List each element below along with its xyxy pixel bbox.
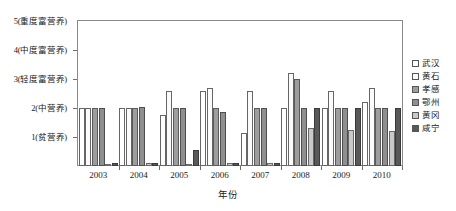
bar-group-2003 bbox=[78, 21, 119, 166]
bar-咸宁-2008 bbox=[314, 108, 320, 166]
x-tick-mark bbox=[240, 166, 241, 170]
bar-武汉-2010 bbox=[362, 102, 368, 166]
legend-label: 武汉 bbox=[422, 59, 440, 68]
bar-group-2009 bbox=[321, 21, 362, 166]
legend-label: 鄂州 bbox=[422, 98, 440, 107]
legend-item-武汉[interactable]: 武汉 bbox=[412, 57, 456, 70]
bar-咸宁-2009 bbox=[355, 108, 361, 166]
bar-黄冈-2006 bbox=[227, 163, 233, 166]
legend-swatch-icon bbox=[412, 73, 419, 80]
bar-group-2010 bbox=[362, 21, 403, 166]
legend-swatch-icon bbox=[412, 99, 419, 106]
bar-黄冈-2010 bbox=[389, 131, 395, 166]
bar-group-2008 bbox=[281, 21, 322, 166]
x-tick-mark bbox=[119, 166, 120, 170]
y-tick-label: 4(中度富营养) bbox=[14, 46, 67, 55]
bar-武汉-2007 bbox=[241, 133, 247, 166]
bar-黄石-2006 bbox=[207, 88, 213, 166]
bar-鄂州-2009 bbox=[342, 108, 348, 166]
x-axis-title: 年份 bbox=[0, 187, 456, 201]
bar-黄石-2010 bbox=[369, 88, 375, 166]
bar-黄冈-2008 bbox=[308, 128, 314, 166]
legend-swatch-icon bbox=[412, 112, 419, 119]
legend: 武汉黄石孝感鄂州黄冈咸宁 bbox=[412, 57, 456, 135]
bar-鄂州-2008 bbox=[301, 108, 307, 166]
bar-黄冈-2004 bbox=[146, 163, 152, 166]
x-tick-mark bbox=[321, 166, 322, 170]
bar-孝感-2007 bbox=[254, 108, 260, 166]
bar-鄂州-2004 bbox=[139, 107, 145, 166]
x-tick-label-2004: 2004 bbox=[130, 170, 148, 181]
bar-鄂州-2003 bbox=[99, 108, 105, 166]
bar-黄石-2008 bbox=[288, 73, 294, 166]
bar-武汉-2009 bbox=[322, 108, 328, 166]
bar-鄂州-2005 bbox=[180, 108, 186, 166]
legend-label: 咸宁 bbox=[422, 124, 440, 133]
bar-黄石-2005 bbox=[166, 91, 172, 166]
bar-鄂州-2010 bbox=[382, 108, 388, 166]
bars-container bbox=[78, 21, 402, 166]
bar-鄂州-2007 bbox=[261, 108, 267, 166]
bar-孝感-2008 bbox=[294, 79, 300, 166]
y-tick-label: 1(贫营养) bbox=[31, 133, 67, 142]
bar-黄冈-2003 bbox=[105, 164, 111, 166]
bar-黄石-2009 bbox=[328, 91, 334, 166]
x-tick-mark bbox=[159, 166, 160, 170]
bar-咸宁-2005 bbox=[193, 150, 199, 166]
legend-item-鄂州[interactable]: 鄂州 bbox=[412, 96, 456, 109]
y-tick-label: 2(中营养) bbox=[31, 104, 67, 113]
y-tick-label: 5(重度富营养) bbox=[14, 17, 67, 26]
bar-咸宁-2004 bbox=[152, 163, 158, 166]
bar-武汉-2005 bbox=[160, 115, 166, 166]
x-tick-mark bbox=[402, 166, 403, 170]
bar-孝感-2005 bbox=[173, 108, 179, 166]
bar-武汉-2006 bbox=[200, 91, 206, 166]
bar-孝感-2006 bbox=[213, 108, 219, 166]
x-tick-label-2006: 2006 bbox=[211, 170, 229, 181]
y-axis: 5(重度富营养)4(中度富营养)3(轻度富营养)2(中营养)1(贫营养) bbox=[0, 0, 77, 211]
legend-label: 黄石 bbox=[422, 72, 440, 81]
legend-swatch-icon bbox=[412, 125, 419, 132]
bar-黄冈-2005 bbox=[186, 164, 192, 166]
x-tick-mark bbox=[362, 166, 363, 170]
bar-group-2004 bbox=[119, 21, 160, 166]
x-tick-label-2008: 2008 bbox=[292, 170, 310, 181]
x-tick-label-2003: 2003 bbox=[89, 170, 107, 181]
bar-孝感-2004 bbox=[132, 108, 138, 166]
eutrophication-bar-chart: 5(重度富营养)4(中度富营养)3(轻度富营养)2(中营养)1(贫营养) 年份 … bbox=[0, 0, 456, 211]
y-tick-label: 3(轻度富营养) bbox=[14, 75, 67, 84]
bar-咸宁-2007 bbox=[274, 163, 280, 166]
bar-group-2007 bbox=[240, 21, 281, 166]
x-tick-mark bbox=[281, 166, 282, 170]
x-tick-label-2009: 2009 bbox=[332, 170, 350, 181]
bar-黄冈-2009 bbox=[348, 130, 354, 166]
bar-咸宁-2003 bbox=[112, 163, 118, 166]
legend-item-咸宁[interactable]: 咸宁 bbox=[412, 122, 456, 135]
bar-武汉-2004 bbox=[119, 108, 125, 166]
bar-group-2006 bbox=[200, 21, 241, 166]
legend-label: 孝感 bbox=[422, 85, 440, 94]
bar-武汉-2008 bbox=[281, 108, 287, 166]
legend-swatch-icon bbox=[412, 86, 419, 93]
x-tick-label-2007: 2007 bbox=[251, 170, 269, 181]
legend-item-黄冈[interactable]: 黄冈 bbox=[412, 109, 456, 122]
legend-label: 黄冈 bbox=[422, 111, 440, 120]
bar-咸宁-2010 bbox=[395, 108, 401, 166]
legend-swatch-icon bbox=[412, 60, 419, 67]
bar-孝感-2009 bbox=[335, 108, 341, 166]
bar-武汉-2003 bbox=[79, 108, 85, 166]
bar-黄石-2007 bbox=[247, 91, 253, 166]
bar-鄂州-2006 bbox=[220, 112, 226, 166]
bar-黄冈-2007 bbox=[267, 163, 273, 166]
bar-黄石-2004 bbox=[126, 108, 132, 166]
x-tick-label-2010: 2010 bbox=[373, 170, 391, 181]
bar-group-2005 bbox=[159, 21, 200, 166]
x-tick-label-2005: 2005 bbox=[170, 170, 188, 181]
bar-黄石-2003 bbox=[85, 108, 91, 166]
bar-孝感-2003 bbox=[92, 108, 98, 166]
bar-咸宁-2006 bbox=[233, 163, 239, 166]
x-tick-mark bbox=[200, 166, 201, 170]
legend-item-黄石[interactable]: 黄石 bbox=[412, 70, 456, 83]
bar-孝感-2010 bbox=[375, 108, 381, 166]
legend-item-孝感[interactable]: 孝感 bbox=[412, 83, 456, 96]
